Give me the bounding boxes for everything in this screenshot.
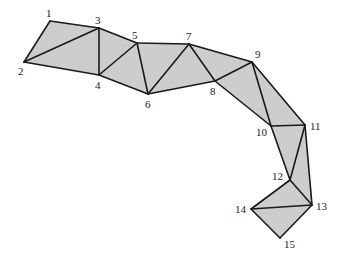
- edge-10-11: [271, 125, 305, 126]
- vertex-label-3: 3: [95, 14, 101, 26]
- vertex-label-2: 2: [18, 65, 24, 77]
- vertex-label-5: 5: [132, 29, 138, 41]
- triangle-faces: [24, 21, 312, 238]
- vertex-label-9: 9: [255, 48, 261, 60]
- vertex-label-11: 11: [310, 120, 321, 132]
- vertex-label-12: 12: [272, 170, 283, 182]
- triangle-13-14-15: [251, 205, 312, 238]
- vertex-label-10: 10: [256, 126, 268, 138]
- triangulation-diagram: 123456789101112131415: [0, 0, 343, 262]
- vertex-label-7: 7: [186, 30, 192, 42]
- vertex-label-6: 6: [145, 98, 151, 110]
- vertex-label-15: 15: [284, 238, 296, 250]
- vertex-label-8: 8: [210, 85, 216, 97]
- vertex-label-1: 1: [46, 7, 52, 19]
- vertex-label-14: 14: [235, 203, 247, 215]
- edge-5-7: [137, 43, 189, 44]
- vertex-label-13: 13: [316, 200, 328, 212]
- vertex-label-4: 4: [95, 79, 101, 91]
